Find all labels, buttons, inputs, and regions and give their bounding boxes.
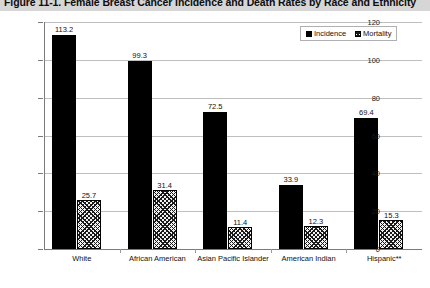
x-axis-category-label: African American [120,254,196,263]
bar-value-label: 15.3 [384,211,399,220]
x-axis-category-label: Asian Pacific Islander [195,254,271,263]
y-axis-tick-mark [38,211,43,212]
y-axis-tick-label: 100 [354,55,380,64]
figure-title-bar: Figure 11-1. Female Breast Cancer Incide… [0,0,430,11]
x-axis-category-label: White [44,254,120,263]
y-axis-tick-label: 120 [354,18,380,27]
chart-legend: Incidence Mortality [300,26,397,41]
x-axis-category-label: Hispanic** [346,254,422,263]
y-axis-tick-label: 80 [354,93,380,102]
bar-group: 33.912.3 [271,22,347,249]
bar-value-label: 69.4 [359,108,374,117]
x-axis-tick-mark [120,249,121,253]
bar-incidence[interactable]: 72.5 [203,112,227,249]
y-axis-tick-label: 20 [354,207,380,216]
bar-value-label: 113.2 [55,25,73,34]
bar-group: 99.331.4 [120,22,196,249]
y-axis-tick-mark [38,173,43,174]
x-axis-tick-mark [195,249,196,253]
y-axis-tick-mark [38,60,43,61]
bar-mortality[interactable]: 11.4 [228,227,252,249]
y-axis-tick-mark [38,249,43,250]
bar-group: 72.511.4 [195,22,271,249]
bar-mortality[interactable]: 31.4 [153,190,177,249]
x-axis-tick-mark [346,249,347,253]
bar-group: 113.225.7 [44,22,120,249]
bar-incidence[interactable]: 113.2 [52,35,76,249]
bar-value-label: 99.3 [132,51,147,60]
legend-item-mortality: Mortality [355,29,391,38]
bar-value-label: 33.9 [283,175,298,184]
bar-incidence[interactable]: 99.3 [128,61,152,249]
bar-mortality[interactable]: 15.3 [379,220,403,249]
y-axis-tick-mark [38,136,43,137]
incidence-swatch-icon [306,31,312,37]
bar-value-label: 25.7 [82,191,97,200]
y-axis-tick-mark [38,98,43,99]
figure-container: Figure 11-1. Female Breast Cancer Incide… [0,0,430,288]
y-axis-tick-mark [38,22,43,23]
figure-title: Figure 11-1. Female Breast Cancer Incide… [4,0,416,8]
bar-value-label: 12.3 [308,217,323,226]
legend-label-mortality: Mortality [363,29,391,38]
y-axis-tick-label: 40 [354,169,380,178]
legend-label-incidence: Incidence [314,29,346,38]
bar-value-label: 31.4 [157,181,172,190]
mortality-swatch-icon [355,31,361,37]
bar-incidence[interactable]: 33.9 [279,185,303,249]
y-axis-tick-label: 0 [354,245,380,254]
bar-value-label: 72.5 [208,102,223,111]
legend-item-incidence: Incidence [306,29,346,38]
y-axis-tick-label: 60 [354,131,380,140]
bar-mortality[interactable]: 12.3 [304,226,328,249]
x-axis-category-label: American Indian [271,254,347,263]
bar-value-label: 11.4 [233,218,247,227]
bar-mortality[interactable]: 25.7 [77,200,101,249]
x-axis-tick-mark [271,249,272,253]
